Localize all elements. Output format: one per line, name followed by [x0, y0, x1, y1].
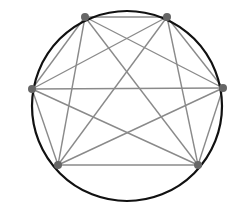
node-n1 — [81, 13, 89, 21]
outer-circle — [32, 11, 222, 201]
edge-n1-n3 — [85, 17, 223, 88]
node-n2 — [163, 13, 171, 21]
edge-n2-n3 — [167, 17, 223, 88]
edge-n4-n6 — [32, 89, 198, 165]
node-n4 — [194, 161, 202, 169]
edge-n3-n5 — [58, 88, 223, 165]
nodes-group — [28, 13, 227, 169]
node-n3 — [219, 84, 227, 92]
edge-n1-n5 — [58, 17, 85, 165]
edge-n2-n6 — [32, 17, 167, 89]
edge-n1-n6 — [32, 17, 85, 89]
node-n6 — [28, 85, 36, 93]
edge-n1-n4 — [85, 17, 198, 165]
edge-n3-n6 — [32, 88, 223, 89]
graph-diagram — [0, 0, 237, 215]
node-n5 — [54, 161, 62, 169]
